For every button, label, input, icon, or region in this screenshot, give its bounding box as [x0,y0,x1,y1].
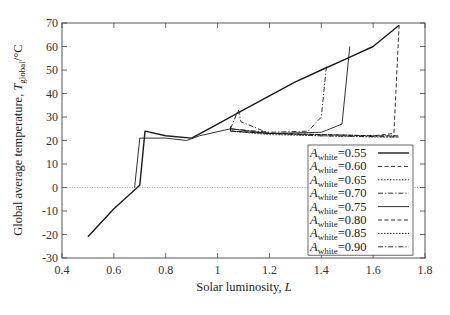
x-tick-label: 1.8 [418,263,433,277]
x-tick-label: 0.8 [158,263,173,277]
x-axis-title: Solar luminosity, L [196,280,291,294]
x-tick-label: 0.6 [106,263,121,277]
y-tick-label: 10 [46,157,58,171]
x-tick-label: 1.4 [314,263,329,277]
y-tick-label: 30 [46,110,58,124]
series-line-060 [231,25,400,136]
y-tick-label: -20 [42,228,58,242]
y-tick-label: -30 [42,251,58,265]
x-tick-label: 1.6 [366,263,381,277]
x-tick-label: 1 [215,263,221,277]
y-tick-label: 20 [46,134,58,148]
series-line-070 [231,65,327,132]
y-tick-label: 50 [46,63,58,77]
y-tick-label: 40 [46,87,58,101]
legend: Awhite=0.55Awhite=0.60Awhite=0.65Awhite=… [308,145,413,256]
x-tick-label: 0.4 [55,263,70,277]
legend-entry-label: Awhite=0.90 [309,240,367,256]
y-tick-label: 60 [46,40,58,54]
y-tick-label: 0 [52,181,58,195]
x-tick-label: 1.2 [262,263,277,277]
chart: 0.40.60.811.21.41.61.8 -30-20-1001020304… [0,0,450,315]
y-axis-title: Global average temperature, Tglobal/°C [11,44,27,235]
y-tick-label: 70 [46,16,58,30]
y-tick-label: -10 [42,204,58,218]
